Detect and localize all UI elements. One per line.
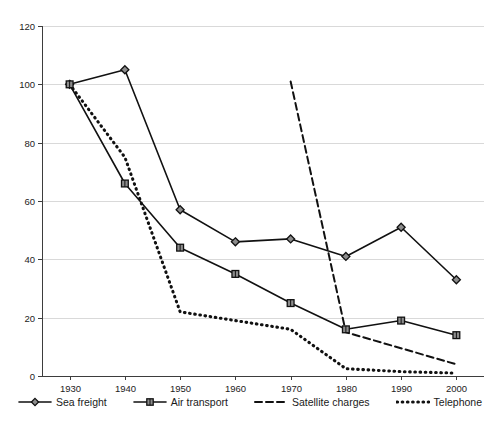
legend-item-telephone[interactable]: Telephone bbox=[396, 396, 482, 408]
marker-sea-freight-1950 bbox=[176, 206, 184, 214]
x-tick-label-1950: 1950 bbox=[170, 383, 191, 394]
legend-item-satellite-charges[interactable]: Satellite charges bbox=[254, 396, 370, 408]
y-tick-label-100: 100 bbox=[19, 79, 35, 90]
data-marker-layer bbox=[66, 66, 461, 339]
series-line-sea-freight bbox=[70, 70, 457, 280]
legend-item-air-transport[interactable]: Air transport bbox=[133, 396, 228, 408]
legend-label: Sea freight bbox=[56, 396, 107, 408]
legend-item-sea-freight[interactable]: Sea freight bbox=[18, 396, 107, 408]
legend-swatch-sea-freight bbox=[18, 396, 52, 408]
legend-swatch-air-transport bbox=[133, 396, 167, 408]
x-tick-label-1940: 1940 bbox=[115, 383, 136, 394]
gridlines bbox=[42, 27, 484, 319]
marker-sea-freight-1940 bbox=[121, 66, 129, 74]
chart-plot-area: 020406080100120 193019401950196019701980… bbox=[0, 0, 500, 428]
x-tick-label-1970: 1970 bbox=[281, 383, 302, 394]
y-tick-label-40: 40 bbox=[24, 254, 35, 265]
x-axis-tick-labels: 19301940195019601970198019902000 bbox=[60, 383, 467, 394]
legend-label: Telephone bbox=[434, 396, 482, 408]
series-line-satellite-charges bbox=[291, 81, 457, 364]
marker-sea-freight-1970 bbox=[287, 235, 295, 243]
legend-label: Air transport bbox=[171, 396, 228, 408]
legend-swatch-satellite-charges bbox=[254, 396, 288, 408]
y-tick-label-20: 20 bbox=[24, 313, 35, 324]
legend-swatch-telephone bbox=[396, 396, 430, 408]
y-axis-tick-labels: 020406080100120 bbox=[19, 21, 35, 382]
marker-sea-freight-1960 bbox=[231, 238, 239, 246]
data-series-layer bbox=[70, 70, 457, 373]
y-tick-label-80: 80 bbox=[24, 138, 35, 149]
legend-label: Satellite charges bbox=[292, 396, 370, 408]
x-tick-label-2000: 2000 bbox=[446, 383, 467, 394]
line-chart: 020406080100120 193019401950196019701980… bbox=[0, 0, 500, 428]
y-tick-label-0: 0 bbox=[30, 371, 35, 382]
y-tick-label-60: 60 bbox=[24, 196, 35, 207]
tick-marks bbox=[38, 27, 457, 381]
x-tick-label-1990: 1990 bbox=[391, 383, 412, 394]
legend-marker-diamond bbox=[31, 398, 38, 405]
y-tick-label-120: 120 bbox=[19, 21, 35, 32]
series-line-air-transport bbox=[70, 84, 457, 335]
x-tick-label-1930: 1930 bbox=[60, 383, 81, 394]
chart-legend: Sea freightAir transportSatellite charge… bbox=[0, 396, 500, 408]
x-tick-label-1960: 1960 bbox=[225, 383, 246, 394]
x-tick-label-1980: 1980 bbox=[336, 383, 357, 394]
